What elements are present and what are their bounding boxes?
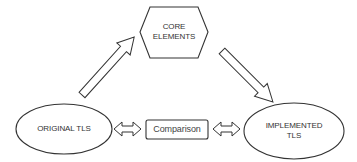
implemented-label-line1: IMPLEMENTED <box>244 121 344 131</box>
implemented-label-line2: TLS <box>244 131 344 141</box>
core-label-line1: CORE <box>140 22 208 32</box>
comparison-label: Comparison <box>146 124 208 134</box>
original-tls-label: ORIGINAL TLS <box>16 124 112 134</box>
arrow-core-to-implemented-icon <box>216 45 280 109</box>
double-arrow-right-icon <box>213 122 240 136</box>
arrow-original-to-core-icon <box>75 31 141 101</box>
double-arrow-left-icon <box>114 122 141 136</box>
implemented-tls-label: IMPLEMENTED TLS <box>244 121 344 141</box>
core-label-line2: ELEMENTS <box>140 32 208 42</box>
core-elements-label: CORE ELEMENTS <box>140 22 208 42</box>
